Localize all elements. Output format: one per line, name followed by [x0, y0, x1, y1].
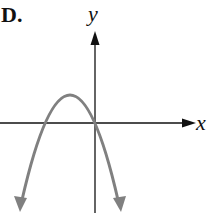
- graph: [0, 0, 210, 213]
- parabola-curve: [22, 95, 118, 200]
- x-axis-arrow-icon: [182, 119, 196, 128]
- right-arrow-icon: [113, 196, 126, 212]
- y-axis-arrow-icon: [91, 31, 100, 45]
- left-arrow-icon: [14, 196, 27, 212]
